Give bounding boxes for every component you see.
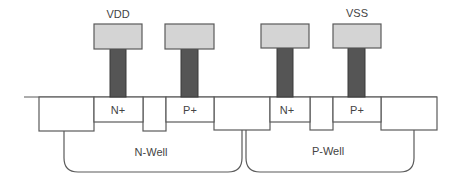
isolation-right (381, 97, 437, 130)
metal-pad-1 (94, 24, 142, 49)
n-plus-right-label: N+ (280, 104, 294, 116)
p-plus-left-label: P+ (183, 104, 197, 116)
isolation-center (214, 97, 270, 130)
isolation-mid-left (143, 97, 166, 131)
isolation-left (39, 97, 94, 131)
n-plus-left-label: N+ (111, 104, 125, 116)
metal-pad-4 (333, 24, 381, 48)
via-1 (110, 49, 126, 97)
via-2 (181, 49, 198, 97)
vss-label: VSS (346, 7, 368, 19)
via-4 (348, 48, 365, 97)
p-well-label: P-Well (312, 145, 344, 157)
metal-pad-3 (261, 24, 309, 48)
n-well-label: N-Well (135, 146, 168, 158)
via-3 (277, 48, 293, 97)
cmos-cross-section-diagram: VDD VSS N+ P+ N+ P+ N-Well P-Well (0, 0, 457, 183)
metal-pad-2 (165, 24, 214, 49)
p-plus-right-label: P+ (350, 104, 364, 116)
isolation-mid-right (310, 97, 333, 130)
vdd-label: VDD (106, 8, 129, 20)
